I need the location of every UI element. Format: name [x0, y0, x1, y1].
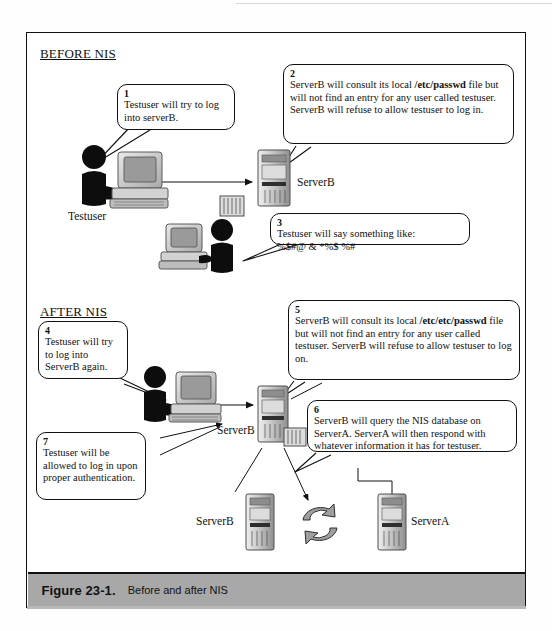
- callout-3-line2: %$#@ & *%$ %#: [277, 241, 355, 252]
- callout-3-number: 3: [277, 217, 463, 228]
- label-serverb-before: ServerB: [297, 176, 335, 188]
- label-testuser: Testuser: [68, 210, 106, 222]
- callout-1-text: Testuser will try to log into serverB.: [124, 99, 219, 123]
- page-top-rule: [236, 3, 552, 4]
- callout-6: 6 ServerB will query the NIS database on…: [307, 400, 517, 452]
- callout-7-number: 7: [43, 436, 139, 447]
- callout-5: 5 ServerB will consult its local /etc/et…: [288, 300, 520, 380]
- callout-7-text: Testuser will be allowed to log in upon …: [43, 447, 138, 483]
- figure-caption-text: Before and after NIS: [128, 584, 228, 596]
- callout-4: 4 Testuser will try to log into ServerB …: [38, 321, 128, 379]
- callout-2-number: 2: [290, 68, 507, 79]
- callout-2-text-pre: ServerB will consult its local: [290, 79, 415, 90]
- callout-1: 1 Testuser will try to log into serverB.: [117, 84, 235, 130]
- label-serverb-bottom: ServerB: [196, 515, 234, 527]
- callout-2-path: /etc/passwd: [415, 79, 466, 90]
- callout-3: 3 Testuser will say something like: %$#@…: [270, 213, 470, 245]
- section-heading-before: BEFORE NIS: [40, 46, 116, 62]
- figure-caption-number: Figure 23-1.: [42, 583, 116, 598]
- label-serverb-after: ServerB: [217, 424, 255, 436]
- callout-2: 2 ServerB will consult its local /etc/pa…: [283, 64, 514, 144]
- figure-caption-bar: Figure 23-1. Before and after NIS: [28, 572, 525, 606]
- figure-page: BEFORE NIS AFTER NIS: [0, 0, 552, 631]
- callout-7: 7 Testuser will be allowed to log in upo…: [36, 432, 146, 500]
- callout-3-line1: Testuser will say something like:: [277, 228, 415, 239]
- caption-shadow: [27, 606, 526, 609]
- section-heading-after: AFTER NIS: [40, 304, 107, 320]
- callout-1-number: 1: [124, 88, 228, 99]
- callout-5-text-pre: ServerB will consult its local: [295, 315, 420, 326]
- callout-5-path: /etc/etc/passwd: [420, 315, 487, 326]
- callout-4-number: 4: [45, 325, 121, 336]
- callout-5-number: 5: [295, 304, 513, 315]
- callout-6-number: 6: [314, 404, 510, 415]
- label-servera-bottom: ServerA: [411, 515, 449, 527]
- callout-6-text: ServerB will query the NIS database on S…: [314, 415, 485, 451]
- callout-4-text: Testuser will try to log into ServerB ag…: [45, 336, 113, 372]
